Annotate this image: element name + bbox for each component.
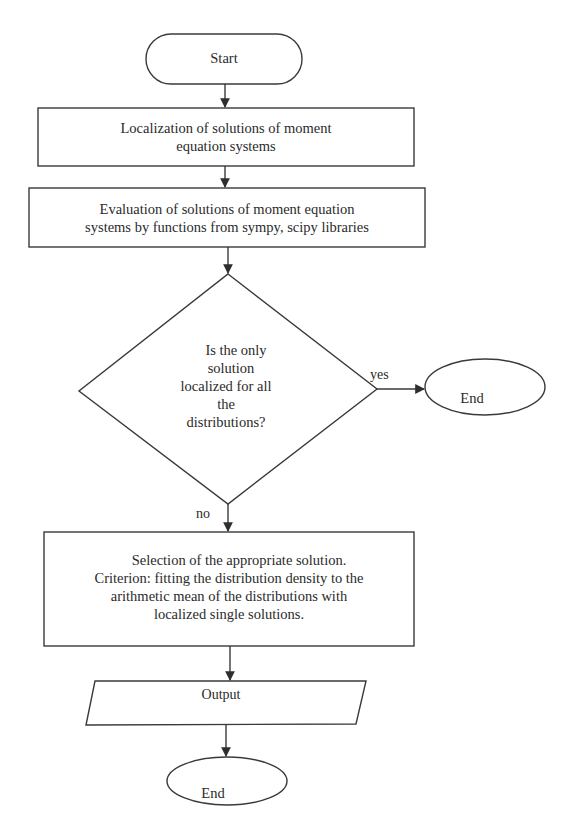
decision-line-1: Is the only [158,341,314,359]
decision-line-2: solution [158,359,304,377]
decision-line-4: the [158,395,294,413]
evaluation-line-1: Evaluation of solutions of moment equati… [29,200,425,218]
end-yes-label: End [460,390,483,406]
start-label: Start [210,50,237,66]
decision-line-3: localized for all [158,377,294,395]
selection-node: Selection of the appropriate solution. C… [44,551,414,623]
start-node: Start [146,49,302,67]
selection-line-3: arithmetic mean of the distributions wit… [44,587,414,605]
end-yes-node: End [425,389,519,407]
decision-line-5: distributions? [158,413,294,431]
end-final-label: End [201,785,224,801]
evaluation-node: Evaluation of solutions of moment equati… [29,200,425,236]
edge-label-yes: yes [370,366,400,384]
selection-line-1: Selection of the appropriate solution. [44,551,414,569]
output-label: Output [202,687,241,702]
localization-node: Localization of solutions of moment equa… [38,119,414,155]
decision-node: Is the only solution localized for all t… [158,341,314,431]
selection-line-4: localized single solutions. [44,605,414,623]
localization-line-2: equation systems [38,137,414,155]
evaluation-line-2: systems by functions from sympy, scipy l… [29,218,425,236]
selection-line-2: Criterion: fitting the distribution dens… [44,569,414,587]
edge-label-no: no [196,505,220,523]
end-final-node: End [167,784,259,802]
output-node: Output [86,686,356,704]
localization-line-1: Localization of solutions of moment [38,119,414,137]
